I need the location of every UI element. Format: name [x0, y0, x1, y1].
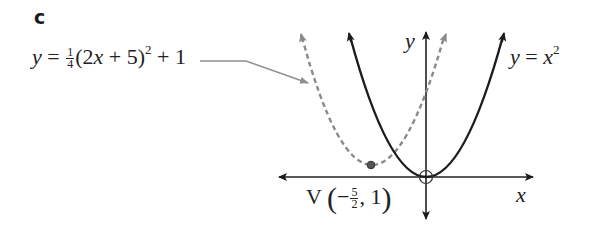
solid-arrow-left	[349, 33, 351, 42]
y-axis-label: y	[405, 28, 415, 54]
dashed-arrow-left	[301, 34, 303, 42]
vertex-label: V (−52, 1)	[306, 181, 391, 215]
vertex-dot	[367, 161, 375, 169]
x-axis-label: x	[516, 182, 526, 208]
dashed-arrow-right	[443, 34, 446, 42]
graph-canvas	[0, 0, 593, 228]
vertex-sign: −	[337, 184, 349, 209]
vertex-close-paren: )	[381, 181, 391, 214]
vertex-x-fraction: 52	[350, 187, 358, 210]
vertex-x-denominator: 2	[350, 199, 358, 210]
solid-arrow-right	[502, 33, 504, 42]
vertex-open-paren: (	[327, 181, 337, 214]
transformed-parabola-curve	[302, 37, 444, 165]
vertex-rest: , 1	[359, 184, 381, 209]
vertex-prefix: V	[306, 184, 327, 209]
leader-line	[200, 61, 308, 83]
